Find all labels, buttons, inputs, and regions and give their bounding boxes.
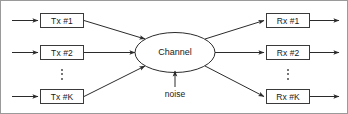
tx-input-arrows <box>12 21 38 97</box>
rx-ellipsis <box>283 66 293 82</box>
tx-box-k-label: Tx #K <box>51 92 74 102</box>
rx-box-2-label: Rx #2 <box>277 48 300 58</box>
rx-box-k-label: Rx #K <box>276 92 300 102</box>
channel-to-rx-arrow-1 <box>205 21 264 40</box>
rx-output-arrows <box>310 21 339 97</box>
tx-box-2[interactable]: Tx #2 <box>40 45 84 60</box>
channel-to-rx-arrow-3 <box>205 66 264 97</box>
rx-box-1-label: Rx #1 <box>277 16 300 26</box>
rx-box-1[interactable]: Rx #1 <box>266 13 310 28</box>
tx-box-2-label: Tx #2 <box>51 48 73 58</box>
block-diagram-figure: Tx #1 Tx #2 Tx #K Rx #1 Rx #2 Rx #K Chan… <box>0 0 348 114</box>
tx-ellipsis <box>57 66 67 82</box>
tx-box-1-label: Tx #1 <box>51 16 73 26</box>
rx-box-k[interactable]: Rx #K <box>266 89 310 104</box>
tx-to-channel-arrows <box>84 21 145 97</box>
noise-label: noise <box>155 89 195 99</box>
channel-label: Channel <box>135 47 215 57</box>
rx-box-2[interactable]: Rx #2 <box>266 45 310 60</box>
tx-to-channel-arrow-3 <box>84 66 145 97</box>
tx-box-k[interactable]: Tx #K <box>40 89 84 104</box>
tx-to-channel-arrow-1 <box>84 21 145 40</box>
tx-box-1[interactable]: Tx #1 <box>40 13 84 28</box>
